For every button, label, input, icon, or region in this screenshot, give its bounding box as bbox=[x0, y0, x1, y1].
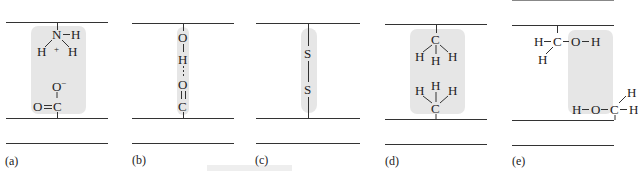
bonds-svg bbox=[500, 0, 634, 174]
panel-label: (d) bbox=[385, 154, 399, 169]
panel-c: S S (c) bbox=[250, 0, 380, 174]
interaction-highlight bbox=[301, 28, 317, 113]
double-bond bbox=[181, 91, 182, 99]
bond bbox=[183, 112, 184, 118]
panel-label: (b) bbox=[132, 153, 146, 168]
panel-e: H C O H H H O C H H (e) bbox=[500, 0, 634, 174]
panel-label: (a) bbox=[5, 154, 18, 169]
bond bbox=[308, 23, 309, 118]
chain-bottom-line bbox=[256, 118, 360, 119]
double-bond bbox=[44, 105, 52, 106]
oxygen-atom: O bbox=[178, 78, 187, 91]
panel-d: C H H H H H H C (d) bbox=[375, 0, 505, 174]
negative-charge: − bbox=[61, 77, 66, 90]
double-bond bbox=[44, 108, 52, 109]
oxygen-atom: O bbox=[52, 80, 61, 93]
chain-third-line bbox=[256, 143, 360, 144]
sulfur-atom: S bbox=[304, 46, 311, 61]
panel-label: (c) bbox=[255, 153, 268, 168]
panel-b: O H O C (b) bbox=[125, 0, 250, 174]
chain-third-line bbox=[132, 143, 234, 144]
sulfur-atom: S bbox=[304, 82, 311, 97]
panel-a: N H H H + O − O C (a) bbox=[0, 0, 125, 174]
chain-bottom-line bbox=[132, 118, 234, 119]
oxygen-atom: O bbox=[178, 31, 187, 44]
bottom-attach-bond bbox=[57, 112, 58, 118]
bond bbox=[183, 44, 184, 52]
oxygen-atom: O bbox=[33, 100, 42, 113]
panel-label: (e) bbox=[512, 154, 525, 169]
bonds-svg bbox=[375, 0, 505, 174]
hydrogen-atom: H bbox=[178, 53, 187, 66]
double-bond bbox=[185, 91, 186, 99]
